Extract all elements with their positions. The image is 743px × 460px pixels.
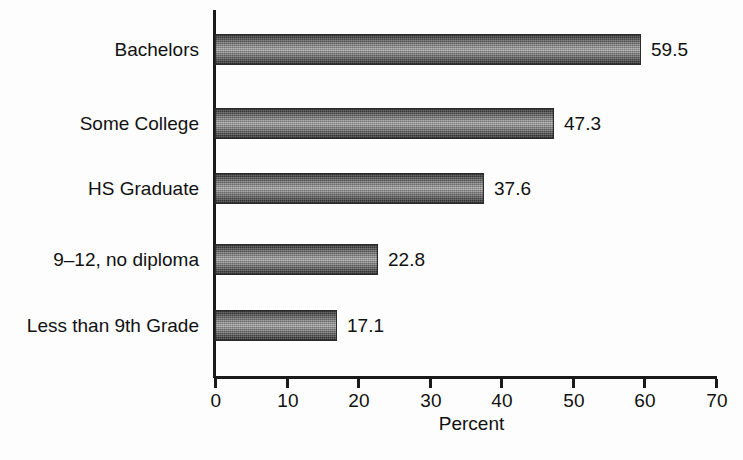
- x-tick-label-30: 30: [401, 390, 461, 412]
- category-label-bachelors: Bachelors: [0, 34, 199, 66]
- bar-row: 9–12, no diploma 22.8: [0, 244, 743, 276]
- bar-bachelors: [215, 34, 641, 65]
- x-axis-title: Percent: [0, 413, 743, 435]
- bar-value-bachelors: 59.5: [651, 34, 688, 65]
- bar-some-college: [215, 108, 554, 139]
- x-tick-label-20: 20: [329, 390, 389, 412]
- x-tick-label-50: 50: [544, 390, 604, 412]
- x-tick-label-10: 10: [258, 390, 318, 412]
- bar-9-12-no-diploma: [215, 244, 378, 275]
- x-tick-60: [643, 379, 646, 388]
- bar-row: Bachelors 59.5: [0, 34, 743, 66]
- x-tick-label-0: 0: [186, 390, 246, 412]
- category-label-9-12-no-diploma: 9–12, no diploma: [0, 244, 199, 276]
- x-tick-0: [214, 379, 217, 388]
- category-label-less-than-9th-grade: Less than 9th Grade: [0, 310, 199, 342]
- x-tick-40: [500, 379, 503, 388]
- x-tick-10: [286, 379, 289, 388]
- bar-chart: Bachelors 59.5 Some College 47.3 HS Grad…: [0, 0, 743, 460]
- bar-row: Less than 9th Grade 17.1: [0, 310, 743, 342]
- bar-hs-graduate: [215, 173, 484, 204]
- bar-less-than-9th-grade: [215, 310, 337, 341]
- bar-value-9-12-no-diploma: 22.8: [388, 244, 425, 275]
- x-tick-label-40: 40: [472, 390, 532, 412]
- category-label-some-college: Some College: [0, 108, 199, 140]
- x-tick-30: [429, 379, 432, 388]
- bar-value-less-than-9th-grade: 17.1: [347, 310, 384, 341]
- bar-value-hs-graduate: 37.6: [494, 173, 531, 204]
- x-tick-20: [357, 379, 360, 388]
- bar-row: HS Graduate 37.6: [0, 173, 743, 205]
- category-label-hs-graduate: HS Graduate: [0, 173, 199, 205]
- x-tick-70: [715, 379, 718, 388]
- x-axis-title-text: Percent: [439, 413, 504, 434]
- bar-row: Some College 47.3: [0, 108, 743, 140]
- x-tick-label-70: 70: [687, 390, 743, 412]
- bar-value-some-college: 47.3: [564, 108, 601, 139]
- x-axis-line: [214, 376, 717, 379]
- x-tick-50: [572, 379, 575, 388]
- x-tick-label-60: 60: [615, 390, 675, 412]
